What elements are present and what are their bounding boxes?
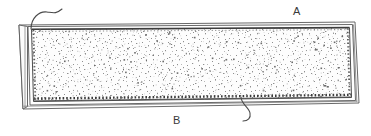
- callout-label-b: B: [173, 114, 181, 126]
- spine-band: [19, 25, 28, 109]
- inner-stipple-panel: [32, 28, 352, 102]
- callout-label-a: A: [293, 5, 301, 17]
- technical-figure: A B: [0, 0, 371, 136]
- figure-drawing-svg: [0, 0, 371, 136]
